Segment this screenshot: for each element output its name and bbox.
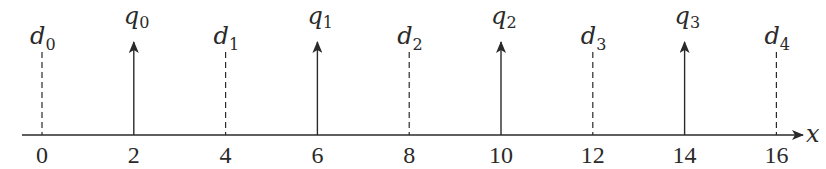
decision-level-label: d1 <box>214 22 240 54</box>
reconstruction-level-label: q3 <box>675 2 701 32</box>
decision-level-label: d4 <box>764 22 790 54</box>
tick-label: 10 <box>489 142 513 168</box>
tick-label: 4 <box>220 142 232 168</box>
decision-level-label: d0 <box>30 22 56 54</box>
decision-level-label: d2 <box>397 22 423 54</box>
tick-label: 14 <box>673 142 697 168</box>
tick-label: 12 <box>581 142 605 168</box>
x-axis: x <box>22 120 820 148</box>
tick-label: 8 <box>403 142 415 168</box>
tick-label: 2 <box>128 142 140 168</box>
axis-label: x <box>806 120 820 148</box>
quantizer-diagram: x 0246810121416 d0d1d2d3d4 q0q1q2q3 <box>0 0 826 169</box>
reconstruction-level-label: q2 <box>491 2 517 32</box>
tick-label: 6 <box>311 142 323 168</box>
tick-labels: 0246810121416 <box>36 142 788 168</box>
tick-label: 0 <box>36 142 48 168</box>
decision-levels: d0d1d2d3d4 <box>30 22 790 135</box>
decision-level-label: d3 <box>581 22 607 54</box>
reconstruction-level-label: q1 <box>307 2 333 32</box>
reconstruction-level-label: q0 <box>124 2 150 32</box>
tick-label: 16 <box>764 142 788 168</box>
